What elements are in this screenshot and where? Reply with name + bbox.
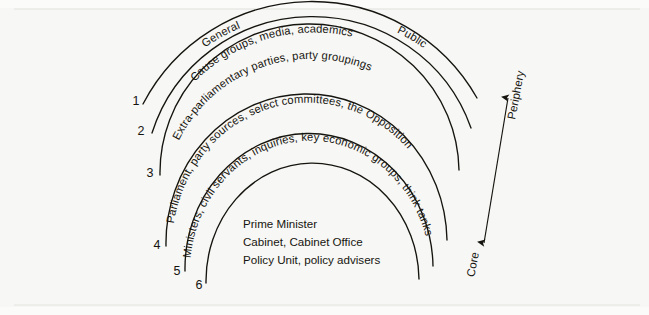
tick-number-4: 4 xyxy=(154,238,161,252)
arc-label-extra-parliamentary: Extra-parliamentary parties, party group… xyxy=(170,49,374,142)
axis-label-periphery: Periphery xyxy=(505,70,526,121)
tick-number-5: 5 xyxy=(174,264,181,278)
arc-label-public: Public xyxy=(396,23,430,50)
figure-page: General Public Cause groups, media, acad… xyxy=(0,0,649,315)
center-line-prime-minister: Prime Minister xyxy=(243,217,317,230)
tick-number-6: 6 xyxy=(196,278,203,292)
concentric-arc-diagram: General Public Cause groups, media, acad… xyxy=(0,0,649,315)
center-line-cabinet: Cabinet, Cabinet Office xyxy=(243,235,363,248)
tick-number-3: 3 xyxy=(147,166,154,180)
core-periphery-axis-arrow xyxy=(484,98,508,243)
axis-label-core: Core xyxy=(464,251,481,278)
arc-ring-5 xyxy=(185,133,433,271)
tick-number-2: 2 xyxy=(138,124,145,138)
tick-number-1: 1 xyxy=(133,94,140,108)
center-line-policy-unit: Policy Unit, policy advisers xyxy=(243,253,380,266)
